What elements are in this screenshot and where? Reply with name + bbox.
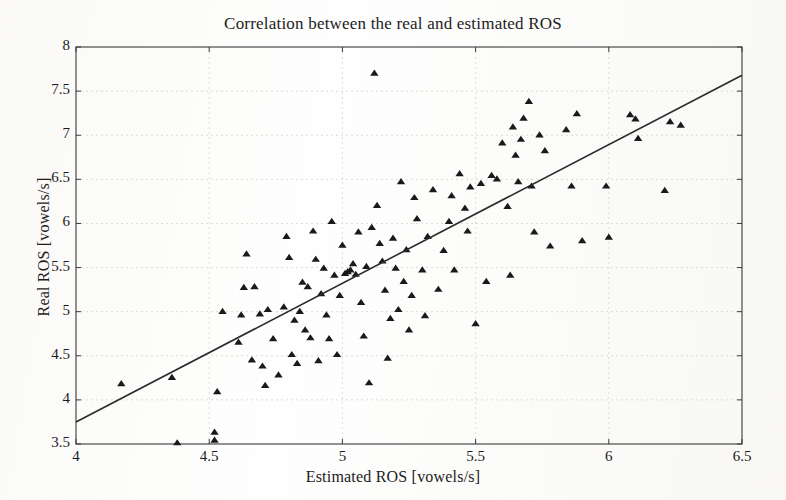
y-tick-label: 7.5 (14, 81, 70, 98)
data-point (328, 218, 336, 224)
data-point (237, 311, 245, 317)
data-point (240, 284, 248, 290)
data-point (261, 382, 269, 388)
data-point (477, 180, 485, 186)
data-point (389, 234, 397, 240)
data-point (333, 351, 341, 357)
data-point (666, 118, 674, 124)
data-point (213, 388, 221, 394)
data-point (525, 98, 533, 104)
data-point (634, 135, 642, 141)
data-point (397, 178, 405, 184)
data-point (434, 286, 442, 292)
data-point (509, 123, 517, 129)
data-point (503, 203, 511, 209)
x-axis-label: Estimated ROS [vowels/s] (0, 468, 786, 486)
x-axis-ticks (76, 47, 742, 444)
x-tick-label: 5.5 (446, 448, 506, 465)
data-point (541, 147, 549, 153)
data-point (368, 224, 376, 230)
data-point (349, 260, 357, 266)
data-point (445, 218, 453, 224)
data-markers (117, 69, 685, 445)
data-point (274, 371, 282, 377)
data-point (168, 374, 176, 380)
data-point (325, 335, 333, 341)
data-point (605, 234, 613, 240)
data-point (413, 215, 421, 221)
data-point (677, 122, 685, 128)
x-tick-label: 4 (46, 448, 106, 465)
data-point (117, 380, 125, 386)
regression-line (76, 75, 742, 422)
data-point (546, 242, 554, 248)
data-point (439, 247, 447, 253)
data-point (498, 139, 506, 145)
data-point (290, 317, 298, 323)
data-point (535, 131, 543, 137)
data-point (373, 202, 381, 208)
data-point (455, 170, 463, 176)
data-point (567, 182, 575, 188)
data-point (269, 335, 277, 341)
data-point (375, 240, 383, 246)
x-tick-label: 6.5 (712, 448, 772, 465)
data-point (410, 194, 418, 200)
data-point (360, 332, 368, 338)
data-point (405, 326, 413, 332)
data-point (461, 204, 469, 210)
chart-figure: Correlation between the real and estimat… (0, 0, 786, 500)
data-point (250, 283, 258, 289)
data-point (381, 287, 389, 293)
x-tick-label: 6 (579, 448, 639, 465)
data-point (471, 320, 479, 326)
data-point (293, 360, 301, 366)
data-point (399, 278, 407, 284)
data-point (421, 312, 429, 318)
data-point (280, 303, 288, 309)
data-point (248, 356, 256, 362)
data-point (306, 334, 314, 340)
data-point (370, 69, 378, 75)
data-point (338, 242, 346, 248)
data-point (330, 272, 338, 278)
plot-frame (76, 47, 742, 444)
data-point (562, 126, 570, 132)
data-point (573, 110, 581, 116)
data-point (511, 152, 519, 158)
scatter-plot (0, 0, 786, 500)
data-point (312, 256, 320, 262)
y-tick-label: 4 (14, 390, 70, 407)
data-point (210, 429, 218, 435)
data-point (314, 357, 322, 363)
data-point (466, 183, 474, 189)
data-point (519, 114, 527, 120)
data-point (517, 136, 525, 142)
data-point (210, 436, 218, 442)
data-point (298, 279, 306, 285)
y-axis-ticks (76, 47, 742, 444)
data-point (322, 311, 330, 317)
data-point (365, 379, 373, 385)
data-point (288, 351, 296, 357)
x-tick-label: 4.5 (179, 448, 239, 465)
data-point (285, 254, 293, 260)
data-point (309, 227, 317, 233)
data-point (447, 192, 455, 198)
grid-horizontal (76, 91, 742, 400)
y-tick-label: 8 (14, 37, 70, 54)
data-point (218, 308, 226, 314)
data-point (394, 306, 402, 312)
data-point (530, 228, 538, 234)
y-axis-label: Real ROS [vowels/s] (35, 117, 53, 377)
data-point (357, 299, 365, 305)
data-point (418, 266, 426, 272)
data-point (506, 272, 514, 278)
data-point (264, 306, 272, 312)
data-point (429, 186, 437, 192)
data-point (626, 111, 634, 117)
data-point (173, 439, 181, 445)
data-point (578, 237, 586, 243)
data-point (282, 233, 290, 239)
data-point (487, 172, 495, 178)
